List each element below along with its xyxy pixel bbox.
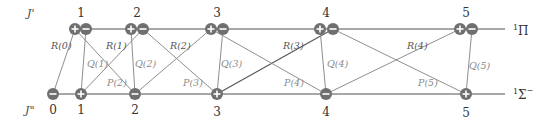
transition-q4 bbox=[320, 29, 326, 94]
lower-j-label: 1 bbox=[77, 103, 85, 117]
q-branch-label: Q(1) bbox=[87, 58, 109, 69]
r-branch-label: R(3) bbox=[282, 40, 304, 51]
r-branch-label: R(2) bbox=[169, 40, 191, 51]
lower-j-label: 3 bbox=[213, 105, 221, 119]
upper-j-label: 4 bbox=[322, 6, 330, 20]
upper-level-j5 bbox=[454, 23, 478, 35]
lower-state-label: 1Σ− bbox=[513, 86, 533, 102]
q-branch-label: Q(3) bbox=[221, 58, 243, 69]
p-branch-label: P(3) bbox=[182, 77, 203, 88]
upper-j-axis-label: J' bbox=[25, 7, 34, 20]
q-branch-label: Q(2) bbox=[135, 58, 157, 69]
upper-j-label: 5 bbox=[462, 6, 470, 20]
q-branch-label: Q(4) bbox=[327, 58, 349, 69]
lower-j-label: 5 bbox=[462, 106, 470, 120]
transition-p5 bbox=[333, 29, 466, 94]
upper-state-label: 1Π bbox=[513, 23, 529, 38]
lower-j-axis-label: J" bbox=[23, 104, 34, 117]
lower-j-label: 2 bbox=[131, 103, 139, 117]
lower-level-j0 bbox=[47, 88, 59, 100]
p-branch-label: P(5) bbox=[417, 77, 438, 88]
upper-level-j1 bbox=[69, 23, 92, 35]
upper-j-label: 1 bbox=[77, 6, 85, 20]
p-branch-label: P(4) bbox=[283, 77, 304, 88]
p-branch-label: P(2) bbox=[106, 77, 127, 88]
upper-level-j2 bbox=[125, 23, 149, 35]
lower-level-j3 bbox=[211, 88, 223, 100]
r-branch-label: R(0) bbox=[50, 40, 72, 51]
upper-level-j3 bbox=[205, 23, 229, 35]
q-branch-label: Q(5) bbox=[469, 60, 491, 71]
upper-j-label: 3 bbox=[213, 6, 221, 20]
upper-j-label: 2 bbox=[133, 6, 141, 20]
lower-j-label: 0 bbox=[49, 103, 57, 117]
lower-level-j5 bbox=[460, 88, 472, 100]
transition-r0 bbox=[53, 29, 75, 94]
energy-level-diagram: J' J" 1 2 3 4 5 0 1 2 3 4 5 R(0) R(1) R(… bbox=[0, 0, 558, 129]
lower-level-j4 bbox=[320, 88, 332, 100]
lower-level-j2 bbox=[129, 88, 141, 100]
r-branch-label: R(1) bbox=[105, 40, 127, 51]
r-branch-label: R(4) bbox=[406, 40, 428, 51]
lower-j-label: 4 bbox=[322, 105, 330, 119]
lower-level-j1 bbox=[75, 88, 87, 100]
